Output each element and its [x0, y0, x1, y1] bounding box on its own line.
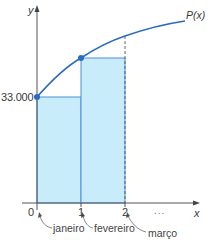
point-x0 — [34, 94, 40, 100]
annotation-janeiro: janeiro — [53, 223, 85, 234]
chart-figure: y P(x) 33.000 0 1 2 ... x janeiro fevere… — [0, 0, 210, 248]
x-ellipsis: ... — [154, 206, 165, 216]
bar-fevereiro — [81, 58, 125, 203]
x-axis-label: x — [194, 208, 200, 219]
y-value-label: 33.000 — [1, 92, 33, 103]
annotation-marco: março — [148, 228, 177, 239]
annotation-fevereiro: fevereiro — [94, 223, 135, 234]
bar-janeiro — [37, 97, 81, 203]
x-tick-2: 2 — [122, 207, 128, 218]
x-tick-1: 1 — [78, 207, 84, 218]
y-axis-arrow-icon — [35, 5, 40, 12]
curve-label: P(x) — [186, 10, 205, 21]
x-tick-0: 0 — [28, 207, 34, 218]
point-x1 — [78, 55, 84, 61]
y-axis-label: y — [28, 5, 34, 16]
x-axis-arrow-icon — [193, 201, 200, 206]
arrow-janeiro-icon — [40, 216, 52, 228]
